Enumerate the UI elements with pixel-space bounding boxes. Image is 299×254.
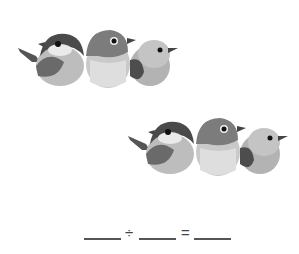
- bird-group-1: [18, 26, 180, 98]
- bird-group-2: [128, 114, 290, 186]
- division-equation: ÷ =: [84, 224, 234, 244]
- divide-sign: ÷: [125, 224, 133, 242]
- answer-blank-1[interactable]: [84, 238, 121, 240]
- answer-blank-2[interactable]: [139, 238, 176, 240]
- equals-sign: =: [181, 224, 190, 242]
- answer-blank-3[interactable]: [194, 238, 231, 240]
- birds-icon: [128, 114, 290, 182]
- birds-icon: [18, 26, 180, 94]
